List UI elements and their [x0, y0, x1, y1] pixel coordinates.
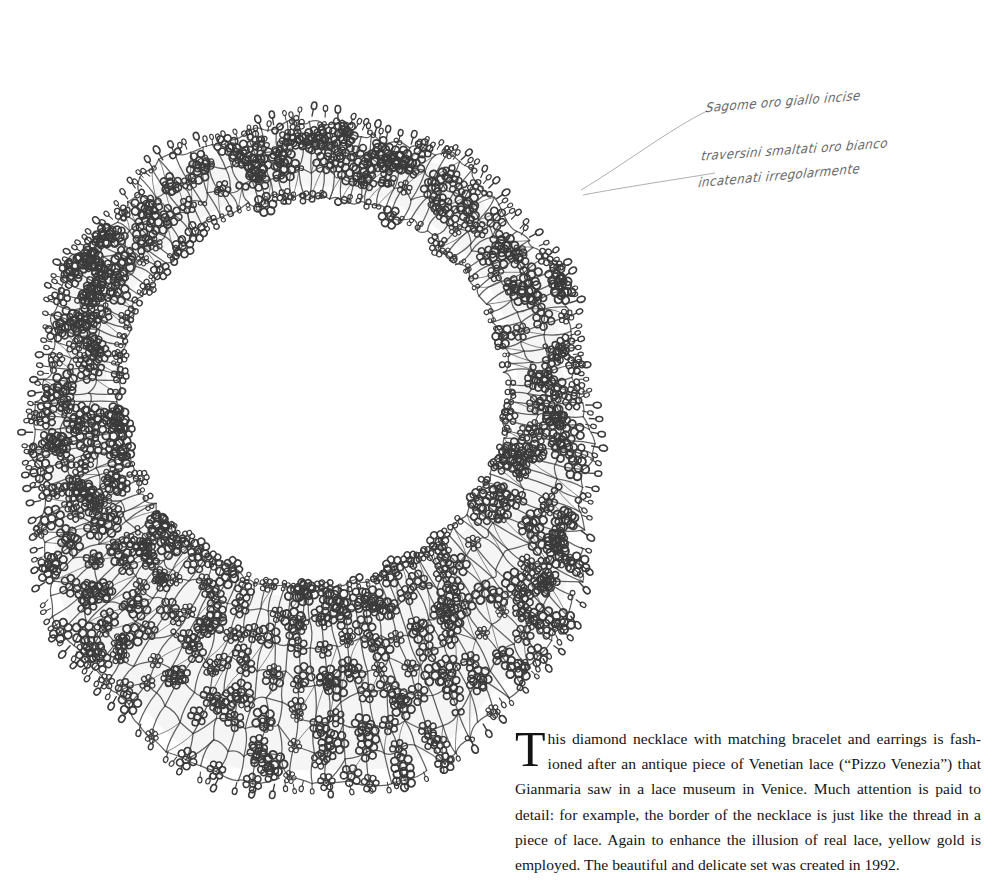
- handwritten-annotation: Sagome oro giallo incise traversini smal…: [693, 86, 963, 206]
- caption-dropcap: T: [515, 727, 548, 769]
- annotation-line-2: traversini smaltati oro bianco: [700, 135, 888, 163]
- annotation-line-1: Sagome oro giallo incise: [705, 88, 862, 115]
- necklace-figure: [0, 0, 640, 802]
- caption-text: his diamond necklace with matching brace…: [515, 730, 981, 873]
- necklace-lace-drawing: [0, 0, 640, 802]
- annotation-line-3: incatenati irregolarmente: [698, 161, 861, 190]
- lace-mesh: [18, 102, 608, 800]
- caption-block: T his diamond necklace with matching bra…: [515, 726, 981, 877]
- page-canvas: Sagome oro giallo incise traversini smal…: [0, 0, 1003, 896]
